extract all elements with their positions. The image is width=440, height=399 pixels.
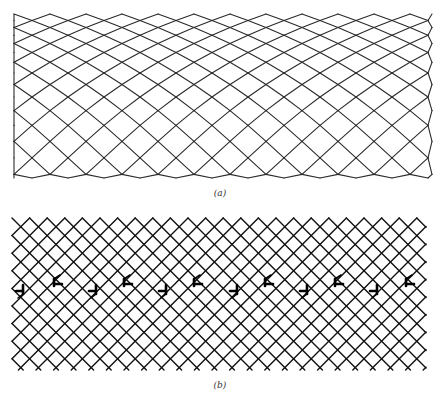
dislocation-symbol-icon bbox=[54, 275, 62, 286]
lattice-lines bbox=[14, 14, 432, 178]
lattice-lines bbox=[12, 218, 426, 370]
dislocation-symbol-icon bbox=[406, 275, 414, 286]
figure-panel-b bbox=[0, 206, 440, 374]
dislocation-lattice-diagram bbox=[0, 206, 440, 374]
figure-panel-a bbox=[0, 0, 440, 182]
caption-b: (b) bbox=[0, 380, 440, 390]
bent-lattice-diagram bbox=[0, 0, 440, 182]
caption-a: (a) bbox=[0, 188, 440, 198]
